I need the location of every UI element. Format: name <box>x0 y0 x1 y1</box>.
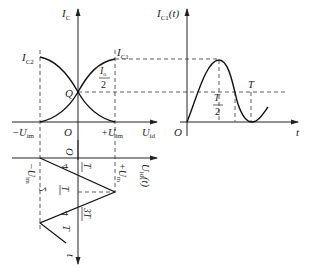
half-current-numerator: Io <box>99 65 106 77</box>
uid-t-axis-label: Uid(t) <box>138 164 151 187</box>
period-label: T <box>248 79 255 90</box>
half-current-denominator: 2 <box>101 79 106 90</box>
ic1t-axis-label: IC1(t) <box>156 7 180 22</box>
ic1t-waveform <box>187 60 268 122</box>
t-axis-label: t <box>296 126 300 138</box>
lower-input-voltage-chart: O −Uim +Um Uid(t) T 4 T 2 3T 4 T t <box>12 140 157 264</box>
three-quarter-period-label: 3T 4 <box>60 207 92 221</box>
pos-uim-tick-label: +Uim <box>101 127 124 140</box>
half-period-numerator: T <box>214 92 221 103</box>
differential-pair-transfer-diagram: IC IC2 IC1 Io 2 Q −Uim O +Uim Uid IC1(t)… <box>0 0 310 277</box>
svg-text:T: T <box>82 163 92 169</box>
lower-period-label: T <box>61 225 72 232</box>
right-origin-label: O <box>174 126 182 138</box>
left-origin-label: O <box>64 126 72 138</box>
svg-text:4: 4 <box>60 211 70 216</box>
time-down-axis-label: t <box>65 254 76 258</box>
lower-pos-um-label: +Um <box>116 163 128 182</box>
ic-axis-label: IC <box>61 7 71 22</box>
ic2-label: IC2 <box>21 51 34 66</box>
lower-neg-uim-label: −Uim <box>25 163 37 184</box>
quarter-period-label: T 4 <box>60 162 92 172</box>
q-point-label: Q <box>65 87 73 99</box>
neg-uim-tick-label: −Uim <box>12 127 35 140</box>
svg-text:2: 2 <box>38 187 48 192</box>
svg-text:T: T <box>60 186 70 192</box>
right-waveform-chart: IC1(t) O t T 2 T <box>156 7 300 138</box>
half-period-lower-label: T 2 <box>38 185 70 195</box>
svg-text:3T: 3T <box>82 207 92 219</box>
half-period-denominator: 2 <box>215 106 220 117</box>
lower-origin-label: O <box>64 148 75 156</box>
uid-axis-label: Uid <box>142 127 156 140</box>
svg-text:4: 4 <box>60 164 70 169</box>
